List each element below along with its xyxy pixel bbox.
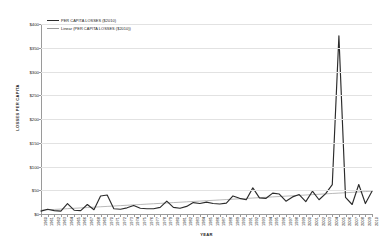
data-line-series	[41, 36, 372, 211]
x-axis-tick-label: 1963	[62, 217, 67, 226]
legend-label-trend-series: Linear (PER CAPITA LOSSES ($2010))	[61, 26, 131, 31]
legend-item-trend-series[interactable]: Linear (PER CAPITA LOSSES ($2010))	[47, 26, 131, 31]
x-axis-tick-label: 1968	[96, 217, 101, 226]
x-axis-tick-label: 1974	[135, 217, 140, 226]
x-axis-tick-label: 1981	[182, 217, 187, 226]
x-axis-tick-label: 1964	[69, 217, 74, 226]
plot-area	[41, 24, 372, 214]
x-axis-tick-label: 1985	[208, 217, 213, 226]
y-axis-tick-mark	[39, 167, 42, 168]
x-axis-tick-label: 1997	[288, 217, 293, 226]
x-axis-tick-mark	[372, 214, 373, 217]
x-axis-tick-label: 2006	[347, 217, 352, 226]
x-axis-tick-label: 1988	[228, 217, 233, 226]
x-axis-tick-label: 1973	[129, 217, 134, 226]
legend-line-swatch-icon	[47, 20, 59, 21]
x-axis-tick-label: 1975	[142, 217, 147, 226]
x-axis-tick-label: 1969	[102, 217, 107, 226]
x-axis-tick-label: 2004	[334, 217, 339, 226]
x-axis-tick-label: 1983	[195, 217, 200, 226]
x-axis-tick-label: 2009	[367, 217, 372, 226]
y-axis-tick-mark	[39, 48, 42, 49]
x-axis-tick-label: 1991	[248, 217, 253, 226]
gridline	[41, 95, 372, 96]
x-axis-tick-label: 1965	[76, 217, 81, 226]
legend-item-data-series[interactable]: PER CAPITA LOSSES ($2010)	[47, 18, 131, 23]
x-axis-tick-label: 1982	[188, 217, 193, 226]
chart-container: LOSSES PER CAPITA $0$50$100$150$200$250$…	[0, 0, 389, 250]
x-axis-tick-label: 1993	[261, 217, 266, 226]
x-axis-tick-label: 1971	[115, 217, 120, 226]
y-axis-tick-mark	[39, 119, 42, 120]
x-axis-tick-label: 2002	[321, 217, 326, 226]
gridline	[41, 119, 372, 120]
y-axis-tick-mark	[39, 95, 42, 96]
gridline	[41, 190, 372, 191]
x-axis-tick-label: 1987	[221, 217, 226, 226]
y-axis-tick-mark	[39, 24, 42, 25]
x-axis-tick-label: 1994	[268, 217, 273, 226]
x-axis-tick-label: 1990	[241, 217, 246, 226]
x-axis-tick-label: 1976	[149, 217, 154, 226]
x-axis-tick-label: 2001	[314, 217, 319, 226]
x-axis-tick-label: 1970	[109, 217, 114, 226]
x-axis-tick-label: 2005	[341, 217, 346, 226]
x-axis-tick-label: 1962	[56, 217, 61, 226]
x-axis-tick-label: 1979	[168, 217, 173, 226]
x-axis-tick-label: 1992	[254, 217, 259, 226]
x-axis-tick-label: 1984	[201, 217, 206, 226]
x-axis-tick-label: 1980	[175, 217, 180, 226]
x-axis-tick-label: 1960	[43, 217, 48, 226]
x-axis-tick-label: 1998	[294, 217, 299, 226]
x-axis-tick-label: 2007	[354, 217, 359, 226]
x-axis-tick-label: 1989	[235, 217, 240, 226]
x-axis-tick-label: 2000	[307, 217, 312, 226]
x-axis-tick-label: 2008	[360, 217, 365, 226]
x-axis-tick-label: 1999	[301, 217, 306, 226]
x-axis-tick-label: 1978	[162, 217, 167, 226]
y-axis-tick-labels: $0$50$100$150$200$250$300$350$400	[18, 0, 40, 250]
x-axis-tick-label: 1967	[89, 217, 94, 226]
legend-line-swatch-icon	[47, 28, 59, 29]
gridline	[41, 72, 372, 73]
x-axis-title: YEAR	[41, 232, 372, 237]
y-axis-tick-mark	[39, 190, 42, 191]
x-axis-tick-label: 2003	[327, 217, 332, 226]
x-axis-tick-label: 2010	[374, 217, 379, 226]
x-axis-tick-label: 1972	[122, 217, 127, 226]
gridline	[41, 143, 372, 144]
x-axis-tick-label: 1995	[274, 217, 279, 226]
x-axis-tick-label: 1961	[49, 217, 54, 226]
x-axis-tick-label: 1986	[215, 217, 220, 226]
y-axis-tick-mark	[39, 72, 42, 73]
gridline	[41, 48, 372, 49]
gridline	[41, 167, 372, 168]
chart-legend: PER CAPITA LOSSES ($2010) Linear (PER CA…	[47, 18, 131, 31]
x-axis-tick-label: 1977	[155, 217, 160, 226]
legend-label-data-series: PER CAPITA LOSSES ($2010)	[61, 18, 116, 23]
x-axis-tick-label: 1996	[281, 217, 286, 226]
x-axis-tick-label: 1966	[82, 217, 87, 226]
y-axis-tick-mark	[39, 143, 42, 144]
